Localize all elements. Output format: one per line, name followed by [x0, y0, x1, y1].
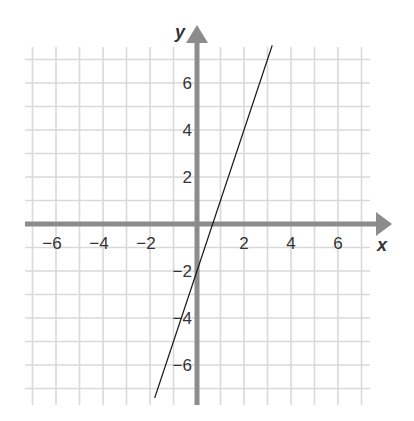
y-tick-label: 6	[183, 74, 192, 93]
x-axis-arrow-icon	[376, 212, 392, 236]
x-axis-label: x	[376, 235, 388, 255]
x-tick-label: 2	[239, 234, 248, 253]
y-tick-label: 4	[183, 121, 192, 140]
x-tick-label: −2	[136, 234, 155, 253]
x-tick-label: −6	[42, 234, 61, 253]
coordinate-plane: −6−4−2246642−2−4−6xy	[0, 0, 414, 421]
y-tick-label: −2	[173, 262, 192, 281]
x-tick-label: −4	[89, 234, 108, 253]
x-tick-label: 6	[333, 234, 342, 253]
y-tick-label: −4	[173, 309, 192, 328]
y-tick-label: −6	[173, 356, 192, 375]
tick-labels: −6−4−2246642−2−4−6xy	[42, 22, 388, 375]
x-tick-label: 4	[286, 234, 295, 253]
y-tick-label: 2	[183, 168, 192, 187]
y-axis-label: y	[174, 22, 186, 42]
y-axis-arrow-icon	[186, 25, 208, 43]
